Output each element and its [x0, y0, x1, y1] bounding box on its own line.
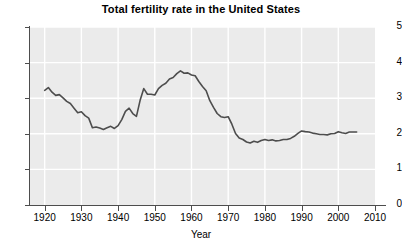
x-tick-mark	[375, 206, 376, 211]
x-tick-mark	[81, 206, 82, 211]
y-tick-mark	[25, 205, 30, 206]
chart-title: Total fertility rate in the United State…	[0, 3, 402, 15]
x-tick-label: 1990	[282, 212, 322, 223]
y-axis-line	[29, 26, 30, 206]
x-tick-label: 1940	[98, 212, 138, 223]
y-tick-label: 2	[378, 127, 402, 138]
y-tick-label: 3	[378, 91, 402, 102]
x-tick-label: 1930	[61, 212, 101, 223]
y-tick-mark	[25, 169, 30, 170]
x-tick-label: 2000	[318, 212, 358, 223]
x-tick-mark	[265, 206, 266, 211]
x-tick-mark	[338, 206, 339, 211]
x-tick-mark	[45, 206, 46, 211]
x-tick-mark	[228, 206, 229, 211]
x-tick-label: 1950	[135, 212, 175, 223]
x-tick-label: 1980	[245, 212, 285, 223]
plot-area	[30, 27, 375, 205]
y-tick-mark	[25, 63, 30, 64]
x-tick-label: 2010	[355, 212, 395, 223]
x-tick-label: 1960	[171, 212, 211, 223]
x-axis-title: Year	[0, 229, 402, 240]
x-tick-label: 1920	[25, 212, 65, 223]
x-tick-mark	[302, 206, 303, 211]
x-tick-mark	[191, 206, 192, 211]
fertility-rate-chart: Total fertility rate in the United State…	[0, 0, 402, 250]
y-tick-mark	[25, 134, 30, 135]
y-tick-mark	[25, 98, 30, 99]
x-tick-label: 1970	[208, 212, 248, 223]
y-tick-label: 5	[378, 20, 402, 31]
x-tick-mark	[118, 206, 119, 211]
x-tick-mark	[155, 206, 156, 211]
y-tick-mark	[25, 27, 30, 28]
y-tick-label: 0	[378, 198, 402, 209]
data-line-series	[30, 27, 375, 205]
x-axis-line	[29, 205, 386, 206]
y-tick-label: 1	[378, 162, 402, 173]
y-tick-label: 4	[378, 56, 402, 67]
